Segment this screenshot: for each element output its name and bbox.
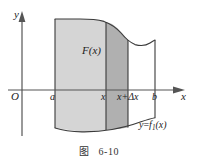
figure-graphic bbox=[0, 0, 198, 165]
tick-label-a: a bbox=[50, 92, 55, 102]
region-delta-x-shaded bbox=[106, 22, 128, 130]
tick-label-x-plus-delta-x: x+Δx bbox=[117, 92, 139, 102]
origin-label: O bbox=[11, 91, 19, 102]
area-label-Fx: F(x) bbox=[82, 45, 101, 56]
x-axis-label: x bbox=[181, 91, 186, 102]
figure-caption: 图6-10 bbox=[0, 143, 198, 158]
caption-label: 图 bbox=[79, 146, 90, 157]
tick-label-x: x bbox=[101, 92, 105, 102]
tick-label-b: b bbox=[152, 92, 157, 102]
region-Fx-shaded bbox=[55, 19, 106, 132]
y-axis-arrowhead bbox=[19, 11, 26, 22]
y-axis-label: y bbox=[14, 9, 19, 20]
figure-container: y x O a x x+Δx b F(x) y=f1(x) 图6-10 bbox=[0, 0, 198, 165]
curve-label-argument: (x) bbox=[155, 119, 166, 130]
curve-label-f1: y=f1(x) bbox=[139, 120, 167, 132]
caption-number: 6-10 bbox=[99, 146, 119, 157]
